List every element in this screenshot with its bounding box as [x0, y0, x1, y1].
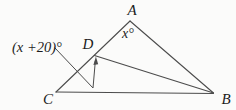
angle-label-x: x°: [121, 26, 134, 41]
vertex-label-A: A: [126, 2, 137, 18]
side-AB-line: [130, 21, 214, 93]
side-CA-line: [56, 21, 130, 92]
geometry-diagram: Ax°D(x +20)°CB: [0, 0, 236, 110]
arrowhead-icon: [93, 57, 98, 66]
vertex-label-D: D: [82, 36, 94, 52]
diagram-svg: Ax°D(x +20)°CB: [0, 0, 236, 110]
vertex-label-C: C: [43, 91, 54, 107]
side-CB-line: [56, 92, 214, 94]
angle-label-x-plus-20: (x +20)°: [12, 39, 62, 56]
segment-DB-line: [95, 56, 214, 94]
vertex-label-B: B: [221, 91, 230, 107]
